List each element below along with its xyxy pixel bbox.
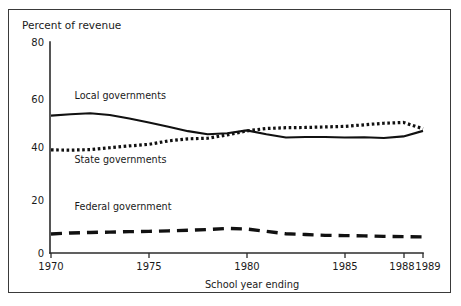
y-tick-label-20: 20 — [31, 195, 44, 206]
series-line-federal-government — [51, 228, 423, 236]
y-tick-label-80: 80 — [31, 37, 44, 48]
x-tick-label-1975: 1975 — [136, 261, 161, 272]
x-tick-label-1980: 1980 — [234, 261, 259, 272]
y-tick-label-60: 60 — [31, 94, 44, 105]
x-tick-label-1988: 1988 — [389, 261, 414, 272]
x-tick-label-1985: 1985 — [332, 261, 357, 272]
y-axis-title: Percent of revenue — [22, 19, 121, 31]
y-tick-group: 80 60 40 20 0 — [31, 37, 44, 259]
x-tick-label-1989: 1989 — [415, 261, 440, 272]
x-tick-label-group: 1970 1975 1980 1985 1988 1989 — [38, 261, 440, 272]
series-label-federal-government: Federal government — [75, 201, 172, 212]
x-tick-label-1970: 1970 — [38, 261, 63, 272]
chart-svg: Percent of revenue 80 60 40 20 0 1970 19… — [0, 0, 461, 306]
y-tick-label-40: 40 — [31, 142, 44, 153]
y-tick-label-0: 0 — [38, 248, 44, 259]
series-label-local-governments: Local governments — [75, 90, 166, 101]
x-axis-title: School year ending — [205, 279, 299, 290]
series-label-state-governments: State governments — [75, 154, 167, 165]
figure-container: Percent of revenue 80 60 40 20 0 1970 19… — [0, 0, 461, 306]
